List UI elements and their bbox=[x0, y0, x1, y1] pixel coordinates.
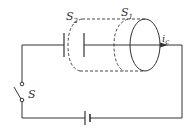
switch-terminal-top bbox=[20, 82, 24, 86]
wire-left-bottom bbox=[22, 102, 85, 118]
wire-bottom-right bbox=[90, 45, 182, 118]
switch-lever bbox=[14, 87, 21, 99]
surface-s2-arc bbox=[68, 19, 82, 71]
label-switch: S bbox=[28, 88, 36, 101]
wire-left-top bbox=[22, 45, 64, 82]
circuit-diagram: S2 S1 ic S bbox=[0, 0, 192, 139]
label-s2: S2 bbox=[66, 10, 79, 25]
label-s1: S1 bbox=[121, 6, 133, 21]
